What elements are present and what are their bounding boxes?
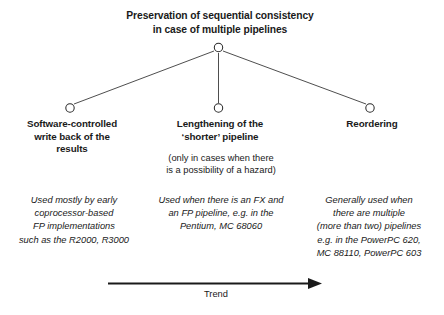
diagram-canvas: Preservation of sequential consistency i…	[0, 0, 444, 315]
node-branch-1	[214, 104, 222, 112]
node-branch-0	[66, 104, 74, 112]
trend-arrow-head	[308, 278, 322, 289]
tree-nodes	[66, 43, 374, 112]
node-root	[214, 43, 222, 51]
branch-note-lengthening: (only in cases when there is a possibili…	[142, 152, 300, 177]
trend-axis-label: Trend	[180, 289, 252, 300]
trend-arrow	[108, 278, 322, 289]
edge-root-to-branch-0	[74, 51, 214, 104]
branch-description-lengthening-of-shorter-pipeline: Used when there is an FX and an FP pipel…	[148, 194, 294, 234]
edge-root-to-branch-2	[223, 51, 366, 104]
tree-edges	[74, 51, 366, 104]
branch-label-reordering: Reordering	[312, 118, 432, 131]
node-branch-2	[366, 104, 374, 112]
branch-description-reordering: Generally used when there are multiple (…	[296, 194, 442, 260]
page-title: Preservation of sequential consistency i…	[77, 9, 363, 37]
branch-label-lengthening-of-shorter-pipeline: Lengthening of the ‘shorter’ pipeline	[152, 118, 288, 143]
branch-description-software-controlled-write-back: Used mostly by early coprocessor-based F…	[3, 194, 145, 247]
branch-label-software-controlled-write-back: Software-controlled write back of the re…	[4, 118, 140, 156]
